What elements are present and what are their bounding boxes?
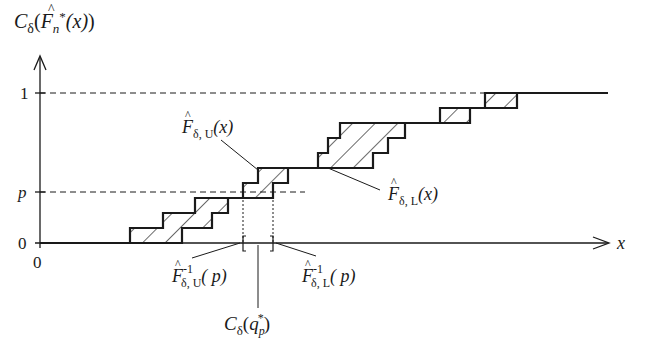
origin-label: 0 [33, 253, 42, 272]
x-axis-label: x [616, 233, 625, 253]
quantile-interval-label: Cδ(qp*) [224, 311, 270, 338]
hat-icon: ^ [185, 108, 191, 122]
tick-label-0: 0 [18, 234, 27, 253]
y-hat-icon: ^ [48, 2, 55, 17]
upper-inverse-leader [192, 243, 240, 258]
tick-label-1: 1 [20, 84, 29, 103]
lower-curve-leader [328, 168, 380, 190]
lower-inverse-leader [276, 243, 316, 256]
hat-icon: ^ [391, 175, 397, 189]
hat-icon: ^ [305, 257, 311, 271]
hat-icon: ^ [175, 257, 181, 271]
tick-label-p: p [17, 183, 27, 202]
upper-curve-leader [221, 140, 258, 170]
confidence-band-diagram: Cδ(Fn*(x)) ^ 1 p 0 0 x Fδ, U(x) ^ Fδ, L(… [0, 0, 652, 360]
